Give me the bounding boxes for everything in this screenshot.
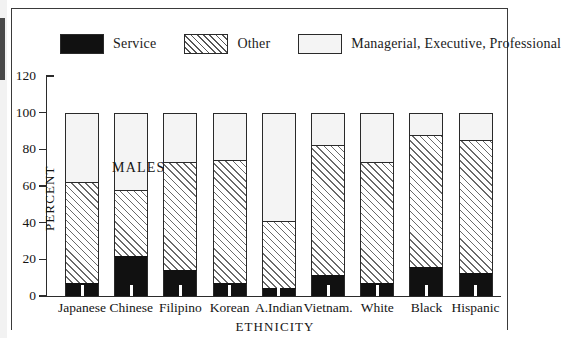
bar-segment-service bbox=[262, 288, 296, 296]
bar-segment-managerial bbox=[311, 113, 345, 145]
page-left-edge-mark bbox=[0, 18, 5, 80]
x-axis-title: ETHNICITY bbox=[46, 319, 504, 335]
chart-legend: Service Other Managerial, Executive, Pro… bbox=[60, 33, 561, 55]
bar-segment-other bbox=[65, 182, 99, 283]
stacked-bar[interactable] bbox=[213, 113, 247, 296]
bar-segment-other bbox=[459, 140, 493, 273]
y-axis-title: PERCENT bbox=[42, 166, 58, 231]
y-axis-tick-label: 80 bbox=[23, 141, 37, 157]
bar-foot-notch bbox=[425, 285, 428, 296]
bar-segment-service bbox=[459, 273, 493, 296]
bar-segment-managerial bbox=[114, 113, 148, 190]
bar-foot-notch bbox=[277, 285, 280, 296]
page-top-edge bbox=[0, 0, 516, 4]
legend-label-managerial: Managerial, Executive, Professional bbox=[351, 36, 561, 52]
bar-segment-service bbox=[65, 283, 99, 296]
hatched-swatch-icon bbox=[184, 34, 228, 54]
bar-foot-notch bbox=[130, 285, 133, 296]
legend-item-service: Service bbox=[60, 34, 156, 54]
stacked-bar[interactable] bbox=[65, 113, 99, 296]
x-axis-tick-label: Black bbox=[411, 300, 443, 316]
bar-foot-notch bbox=[327, 285, 330, 296]
legend-item-managerial: Managerial, Executive, Professional bbox=[298, 34, 561, 54]
bar-foot-notch bbox=[179, 285, 182, 296]
bar-segment-managerial bbox=[65, 113, 99, 183]
bar-segment-service bbox=[409, 267, 443, 296]
bar-segment-managerial bbox=[360, 113, 394, 163]
x-axis-tick-label: Vietnam. bbox=[303, 300, 352, 316]
plot-area: 020406080100120 PERCENT MALES bbox=[46, 76, 504, 296]
solid-black-swatch-icon bbox=[60, 34, 104, 54]
bar-foot-notch bbox=[228, 285, 231, 296]
stacked-bar[interactable] bbox=[360, 113, 394, 296]
bar-segment-managerial bbox=[213, 113, 247, 161]
stacked-bar[interactable] bbox=[262, 113, 296, 296]
bar-segment-other bbox=[262, 221, 296, 288]
light-grey-swatch-icon bbox=[298, 34, 342, 54]
bar-segment-managerial bbox=[409, 113, 443, 135]
legend-item-other: Other bbox=[184, 34, 270, 54]
x-axis-tick-label: Chinese bbox=[109, 300, 153, 316]
y-axis-tick-label: 60 bbox=[23, 178, 37, 194]
legend-label-other: Other bbox=[237, 36, 270, 52]
bar-group bbox=[46, 76, 504, 296]
bar-foot-notch bbox=[81, 285, 84, 296]
bar-segment-managerial bbox=[459, 113, 493, 141]
y-axis-tick-label: 120 bbox=[16, 68, 36, 84]
x-axis-line bbox=[46, 296, 501, 297]
stacked-bar[interactable] bbox=[459, 113, 493, 296]
y-axis-tick-label: 20 bbox=[23, 251, 37, 267]
bar-segment-other bbox=[163, 162, 197, 270]
x-axis-tick-label: Japanese bbox=[58, 300, 106, 316]
bar-segment-service bbox=[114, 256, 148, 296]
stacked-bar[interactable] bbox=[409, 113, 443, 296]
bar-segment-other bbox=[409, 135, 443, 267]
bar-segment-service bbox=[311, 275, 345, 296]
stacked-bar[interactable] bbox=[311, 113, 345, 296]
bar-segment-managerial bbox=[163, 113, 197, 163]
plot-annotation-males: MALES bbox=[112, 160, 165, 176]
bar-segment-managerial bbox=[262, 113, 296, 221]
bar-segment-service bbox=[163, 270, 197, 296]
legend-label-service: Service bbox=[113, 36, 156, 52]
bar-foot-notch bbox=[474, 285, 477, 296]
bar-foot-notch bbox=[376, 285, 379, 296]
x-axis-tick-label: Hispanic bbox=[452, 300, 500, 316]
y-axis-tick-label: 40 bbox=[23, 215, 37, 231]
y-axis-tick-label: 100 bbox=[16, 105, 36, 121]
bar-segment-other bbox=[114, 190, 148, 256]
bar-segment-other bbox=[213, 160, 247, 283]
x-axis-tick-label: Filipino bbox=[159, 300, 202, 316]
bar-segment-other bbox=[311, 145, 345, 275]
x-axis-tick-label: A.Indian bbox=[255, 300, 303, 316]
stacked-bar[interactable] bbox=[163, 113, 197, 296]
stacked-bar[interactable] bbox=[114, 113, 148, 296]
x-axis-tick-label: Korean bbox=[210, 300, 250, 316]
y-axis-tick-label: 0 bbox=[29, 288, 36, 304]
bar-segment-other bbox=[360, 162, 394, 283]
bar-segment-service bbox=[360, 283, 394, 296]
x-axis-tick-label: White bbox=[361, 300, 394, 316]
x-axis-tick-labels: JapaneseChineseFilipinoKoreanA.IndianVie… bbox=[46, 300, 504, 320]
bar-segment-service bbox=[213, 283, 247, 296]
